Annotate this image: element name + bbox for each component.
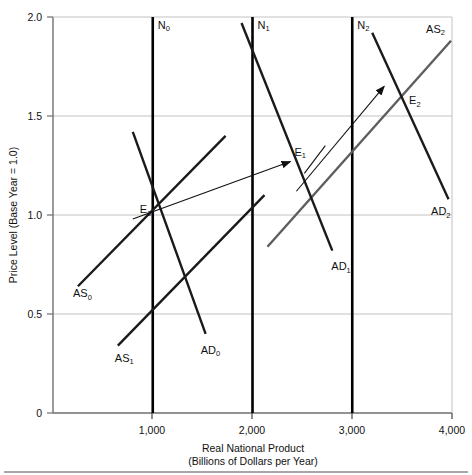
curve-label-AD1: AD1: [331, 260, 350, 275]
y-tick-label-2.0: 2.0: [27, 11, 42, 23]
curve-AS1: [118, 195, 265, 345]
curve-label-N0: N0: [158, 19, 170, 33]
x-axis-title: Real National Product: [202, 442, 304, 454]
curve-label-N1: N1: [258, 19, 270, 33]
chart-canvas: N0N1N2AS0AS1AS2AD0AD1AD2E0E1E2 1,000 2,0…: [0, 0, 472, 475]
x-tick-labels: 1,000 2,000 3,000 4,000: [139, 424, 465, 436]
y-tick-labels: 0 0.5 1.0 1.5 2.0: [27, 11, 42, 419]
arrow-e1-to-e2: [296, 86, 384, 191]
curve-label-AD2: AD2: [431, 205, 450, 220]
curve-label-AS2: AS2: [426, 23, 445, 38]
annotation-layer: [133, 86, 384, 219]
equilibrium-label-E2: E2: [409, 94, 421, 109]
curve-label-N2: N2: [357, 19, 369, 33]
as-ad-chart-figure: N0N1N2AS0AS1AS2AD0AD1AD2E0E1E2 1,000 2,0…: [0, 0, 472, 475]
curve-label-AS0: AS0: [73, 287, 92, 302]
x-tick-label-4000: 4,000: [439, 424, 465, 436]
y-tick-label-0: 0: [36, 407, 42, 419]
y-tick-marks: [47, 17, 53, 413]
y-axis-title: Price Level (Base Year = 1.0): [7, 147, 19, 283]
curve-AD0: [133, 132, 206, 334]
x-axis-subtitle: (Billions of Dollars per Year): [188, 455, 318, 467]
x-tick-label-1000: 1,000: [139, 424, 165, 436]
y-tick-label-1.5: 1.5: [27, 110, 42, 122]
curve-label-AS1: AS1: [115, 352, 134, 367]
y-tick-label-0.5: 0.5: [27, 308, 42, 320]
x-tick-label-3000: 3,000: [339, 424, 365, 436]
curve-label-AD0: AD0: [201, 344, 220, 359]
y-tick-label-1.0: 1.0: [27, 209, 42, 221]
x-tick-label-2000: 2,000: [239, 424, 265, 436]
curve-AD1: [242, 23, 333, 251]
x-tick-marks: [152, 413, 452, 419]
arrow-e0-to-e1: [133, 162, 291, 219]
